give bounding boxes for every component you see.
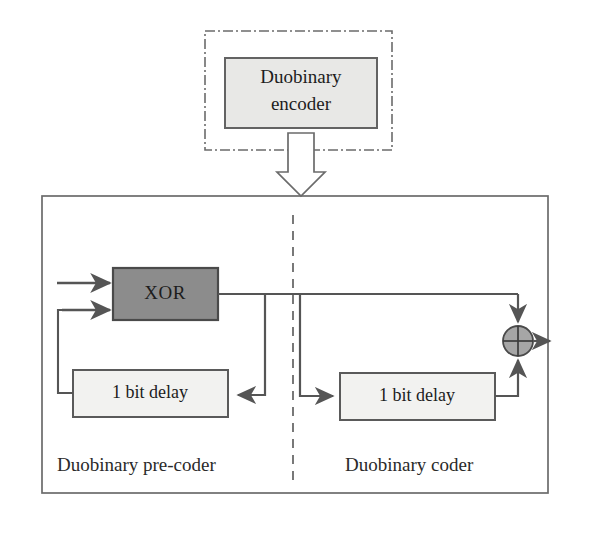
coder-delay-label: 1 bit delay: [379, 385, 455, 405]
precoder-delay-label: 1 bit delay: [112, 382, 188, 402]
xor-label: XOR: [144, 282, 186, 303]
coder-section-label: Duobinary coder: [345, 454, 474, 475]
precoder-feedback-wire: [58, 310, 73, 393]
coder-delay-input-wire: [300, 294, 333, 396]
main-frame: [42, 196, 548, 493]
figure-canvas: Duobinary encoder XOR 1 bit delay 1 bit …: [0, 0, 601, 540]
encoder-label-line2: encoder: [271, 93, 332, 114]
encoder-label-line1: Duobinary: [260, 66, 342, 87]
block-arrow-down-icon: [277, 133, 325, 196]
precoder-feedback-tap: [238, 294, 265, 395]
precoder-section-label: Duobinary pre-coder: [57, 454, 216, 475]
coder-delay-output-wire: [495, 360, 518, 396]
duobinary-encoder-diagram: Duobinary encoder XOR 1 bit delay 1 bit …: [0, 0, 601, 540]
